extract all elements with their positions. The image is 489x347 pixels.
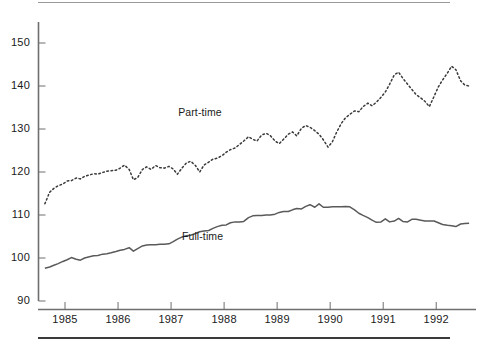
series-label-full-time: Full-time bbox=[182, 230, 223, 242]
x-axis-tick-label: 1991 bbox=[360, 313, 406, 325]
y-axis-tick-label: 130 bbox=[4, 122, 30, 134]
y-axis-tick-label: 140 bbox=[4, 79, 30, 91]
data-series-group bbox=[45, 66, 469, 268]
x-axis-tick-label: 1986 bbox=[95, 313, 141, 325]
figure-container: 90100110120130140150 1985198619871988198… bbox=[0, 0, 489, 347]
y-axis-tick-label: 100 bbox=[4, 251, 30, 263]
y-axis-tick-label: 150 bbox=[4, 36, 30, 48]
x-axis-tick-label: 1989 bbox=[254, 313, 300, 325]
y-axis-tick-label: 120 bbox=[4, 165, 30, 177]
y-axis-group bbox=[39, 22, 46, 301]
series-label-part-time: Part-time bbox=[178, 106, 222, 118]
line-chart-plot bbox=[0, 0, 489, 347]
x-axis-tick-label: 1990 bbox=[307, 313, 353, 325]
y-axis-ticks bbox=[39, 43, 46, 301]
series-line-part-time bbox=[45, 66, 469, 204]
x-axis-group bbox=[38, 302, 476, 310]
y-axis-tick-label: 110 bbox=[4, 208, 30, 220]
x-axis-tick-label: 1988 bbox=[201, 313, 247, 325]
y-axis-tick-label: 90 bbox=[4, 294, 30, 306]
x-axis-tick-label: 1992 bbox=[413, 313, 459, 325]
x-axis-tick-label: 1985 bbox=[42, 313, 88, 325]
x-axis-tick-label: 1987 bbox=[148, 313, 194, 325]
x-axis-ticks bbox=[65, 302, 436, 310]
series-line-full-time bbox=[45, 204, 469, 269]
